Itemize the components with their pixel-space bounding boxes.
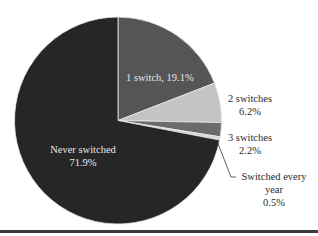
bottom-rule: [0, 230, 318, 233]
label-never-name: Never switched: [40, 143, 126, 156]
label-one-switch: 1 switch, 19.1%: [126, 71, 194, 84]
label-two-switches: 2 switches 6.2%: [220, 92, 280, 118]
label-two-switches-name: 2 switches: [220, 92, 280, 105]
label-three-switches-name: 3 switches: [220, 131, 280, 144]
label-every-year-pct: 0.5%: [236, 196, 312, 209]
label-never-pct: 71.9%: [40, 156, 126, 169]
label-every-year: Switched every year 0.5%: [236, 170, 312, 209]
pie-slices: [14, 17, 221, 224]
label-never-switched: Never switched 71.9%: [40, 143, 126, 169]
label-three-switches-pct: 2.2%: [220, 144, 280, 157]
label-two-switches-pct: 6.2%: [220, 105, 280, 118]
label-every-year-name-2: year: [236, 183, 312, 196]
label-every-year-name-1: Switched every: [236, 170, 312, 183]
label-three-switches: 3 switches 2.2%: [220, 131, 280, 157]
